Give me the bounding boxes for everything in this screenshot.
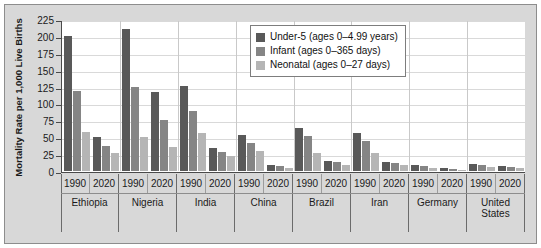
bar-infant (304, 136, 312, 171)
bar-infant (420, 166, 428, 171)
x-axis-country-label: India (177, 194, 235, 232)
y-axis-tick-label: 200 (37, 33, 54, 43)
legend-label: Neonatal (ages 0–27 days) (270, 60, 390, 70)
bar-infant (73, 91, 81, 171)
bar-neonatal (429, 168, 437, 171)
x-axis-year-2020: 2020 (496, 174, 525, 193)
bar-neonatal (198, 133, 206, 172)
x-axis-year-1990: 1990 (293, 174, 322, 193)
x-axis-year-1990: 1990 (177, 174, 206, 193)
x-axis-year-1990: 1990 (351, 174, 380, 193)
y-axis-tick (56, 139, 61, 140)
bar-under5 (267, 165, 275, 171)
bar-under5 (411, 165, 419, 171)
bar-infant (131, 87, 139, 171)
bar-infant (362, 141, 370, 171)
bar-neonatal (371, 153, 379, 171)
legend-label: Under-5 (ages 0–4.99 years) (270, 32, 398, 42)
y-axis-tick (56, 89, 61, 90)
bar-neonatal (82, 132, 90, 171)
legend-swatch-icon (256, 33, 265, 42)
x-axis-year-1990: 1990 (467, 174, 496, 193)
bar-under5 (122, 29, 130, 171)
bar-neonatal (169, 147, 177, 171)
y-axis-tick (56, 72, 61, 73)
y-axis-tick (56, 105, 61, 106)
x-axis-country-label: Ethiopia (61, 194, 119, 232)
y-axis-tick-label: 125 (37, 84, 54, 94)
bar-infant (449, 169, 457, 171)
bar-neonatal (458, 170, 466, 171)
bar-group (438, 21, 467, 171)
bar-group (207, 21, 236, 171)
bar-infant (507, 167, 515, 171)
legend-label: Infant (ages 0–365 days) (270, 46, 381, 56)
bar-infant (189, 111, 197, 171)
bar-under5 (498, 166, 506, 171)
bar-infant (247, 143, 255, 171)
y-axis-tick (56, 156, 61, 157)
y-axis-tick (56, 21, 61, 22)
bar-infant (102, 146, 110, 171)
y-axis-tick-label: 0 (48, 168, 54, 178)
x-axis-year-1990: 1990 (409, 174, 438, 193)
bar-neonatal (140, 137, 148, 171)
bar-infant (333, 162, 341, 171)
legend-item[interactable]: Under-5 (ages 0–4.99 years) (256, 30, 398, 44)
bar-neonatal (285, 168, 293, 171)
bar-under5 (295, 128, 303, 171)
y-axis-title-label: Mortality Rate per 1,000 Live Births (13, 18, 24, 176)
x-axis-year-1990: 1990 (61, 174, 90, 193)
bar-group (410, 21, 439, 171)
bar-neonatal (516, 168, 524, 171)
bar-group (92, 21, 121, 171)
y-axis-tick-label: 150 (37, 67, 54, 77)
x-axis-year-2020: 2020 (264, 174, 293, 193)
bar-under5 (151, 92, 159, 171)
bar-neonatal (111, 153, 119, 171)
chart-legend: Under-5 (ages 0–4.99 years)Infant (ages … (250, 25, 406, 77)
x-axis-year-2020: 2020 (90, 174, 119, 193)
bar-group (179, 21, 208, 171)
x-axis-country-label: Nigeria (119, 194, 177, 232)
bar-under5 (64, 36, 72, 171)
bar-neonatal (256, 151, 264, 171)
y-axis-tick (56, 55, 61, 56)
y-axis-tick (56, 38, 61, 39)
bar-under5 (180, 86, 188, 171)
bar-group (467, 21, 496, 171)
bar-neonatal (487, 167, 495, 171)
x-axis-country-label: China (235, 194, 293, 232)
y-axis-tick (56, 122, 61, 123)
x-axis-year-2020: 2020 (380, 174, 409, 193)
bar-under5 (353, 133, 361, 171)
bar-infant (160, 120, 168, 171)
bar-infant (478, 165, 486, 171)
y-axis-title: Mortality Rate per 1,000 Live Births (11, 21, 25, 173)
bar-group (496, 21, 525, 171)
x-axis-country-label: Iran (351, 194, 409, 232)
legend-swatch-icon (256, 47, 265, 56)
bar-under5 (324, 161, 332, 171)
y-axis-tick-label: 25 (43, 151, 54, 161)
x-axis-year-2020: 2020 (438, 174, 467, 193)
bar-infant (218, 152, 226, 171)
x-axis-country-labels: EthiopiaNigeriaIndiaChinaBrazilIranGerma… (61, 194, 525, 232)
bar-group (150, 21, 179, 171)
legend-item[interactable]: Neonatal (ages 0–27 days) (256, 58, 398, 72)
bar-neonatal (227, 156, 235, 171)
x-axis-country-label: Brazil (293, 194, 351, 232)
x-axis-year-1990: 1990 (235, 174, 264, 193)
legend-item[interactable]: Infant (ages 0–365 days) (256, 44, 398, 58)
y-axis-tick-label: 75 (43, 117, 54, 127)
bar-neonatal (313, 153, 321, 171)
y-axis-tick-label: 175 (37, 50, 54, 60)
bar-neonatal (400, 165, 408, 171)
y-axis-tick-label: 225 (37, 16, 54, 26)
x-axis-year-2020: 2020 (322, 174, 351, 193)
bar-infant (391, 163, 399, 171)
bar-group (121, 21, 150, 171)
x-axis-country-label: Germany (409, 194, 467, 232)
y-axis-tick-label: 50 (43, 134, 54, 144)
x-axis-year-labels: 1990202019902020199020201990202019902020… (61, 174, 525, 194)
